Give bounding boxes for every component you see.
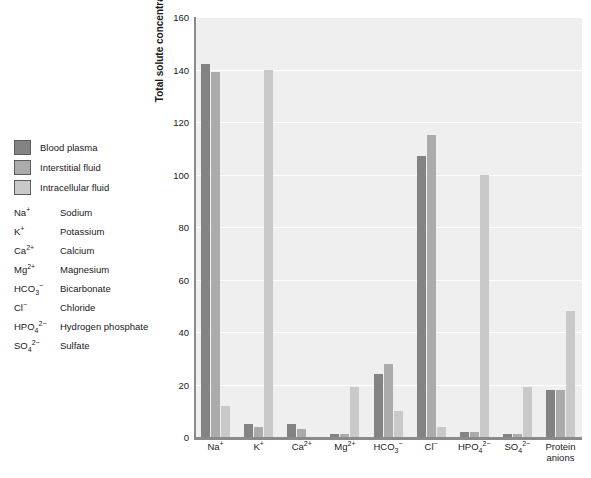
ion-key-symbol: Na+ (14, 207, 60, 218)
bar (287, 424, 296, 437)
y-axis-tick-label: 0 (184, 432, 189, 443)
chart-key-panel: Blood plasma Interstitial fluid Intracel… (14, 138, 164, 359)
ion-key-name: Sulfate (60, 340, 90, 351)
legend-item-interstitial-fluid: Interstitial fluid (14, 158, 164, 177)
x-axis-tick-label: K+ (253, 441, 263, 452)
x-axis-tick-label: SO42− (505, 441, 531, 452)
bar-group (460, 17, 489, 437)
bar (201, 64, 210, 437)
ion-key-name: Bicarbonate (60, 283, 111, 294)
ion-key-row: SO42−Sulfate (14, 340, 164, 351)
ion-key-symbol: HPO42− (14, 321, 60, 332)
bar-group (287, 17, 316, 437)
y-axis-tick-label: 60 (178, 274, 189, 285)
bar (264, 70, 273, 438)
ion-key-name: Sodium (60, 207, 92, 218)
y-axis-tick-label: 20 (178, 379, 189, 390)
ion-key-name: Calcium (60, 245, 94, 256)
plot-area: 020406080100120140160 Na+K+Ca2+Mg2+HCO3−… (194, 17, 582, 437)
legend-swatch-blood-plasma (14, 140, 31, 155)
x-axis-tick-label: Na+ (207, 441, 223, 452)
ion-key-row: K+Potassium (14, 226, 164, 237)
bar (546, 390, 555, 437)
bar (427, 135, 436, 437)
x-axis-tick-label: HCO3− (373, 441, 402, 452)
bar (437, 427, 446, 438)
bar (417, 156, 426, 437)
bar (523, 387, 532, 437)
x-axis-tick-label: Ca2+ (292, 441, 312, 452)
bars-layer (194, 17, 582, 437)
ion-key-symbol: K+ (14, 226, 60, 237)
y-axis-tick-label: 80 (178, 222, 189, 233)
legend-label-interstitial-fluid: Interstitial fluid (40, 162, 101, 173)
ion-key-row: Ca2+Calcium (14, 245, 164, 256)
bar-group (503, 17, 532, 437)
ion-key-name: Chloride (60, 302, 95, 313)
y-axis-tick-label: 100 (173, 169, 189, 180)
legend-item-blood-plasma: Blood plasma (14, 138, 164, 157)
ion-key-symbol: Ca2+ (14, 245, 60, 256)
bar (374, 374, 383, 437)
legend-label-blood-plasma: Blood plasma (40, 142, 98, 153)
y-axis-title: Total solute concentration (mEq/L) (154, 0, 165, 130)
y-axis-tick-label: 160 (173, 12, 189, 23)
bar (556, 390, 565, 437)
bar (480, 175, 489, 438)
ion-key-symbol: HCO3− (14, 283, 60, 294)
ion-key-name: Hydrogen phosphate (60, 321, 148, 332)
bar (297, 429, 306, 437)
bar-group (330, 17, 359, 437)
bar (384, 364, 393, 438)
bar-group (417, 17, 446, 437)
y-axis-tick-label: 140 (173, 64, 189, 75)
bar-group (244, 17, 273, 437)
ion-key-row: HPO42−Hydrogen phosphate (14, 321, 164, 332)
legend-swatch-intracellular-fluid (14, 180, 31, 195)
ion-key-row: HCO3−Bicarbonate (14, 283, 164, 294)
bar-group (374, 17, 403, 437)
ion-key-row: Mg2+Magnesium (14, 264, 164, 275)
y-axis-tick-label: 40 (178, 327, 189, 338)
bar-group (546, 17, 575, 437)
bar-group (201, 17, 230, 437)
bar-chart: Total solute concentration (mEq/L) 02040… (158, 10, 583, 475)
legend-item-intracellular-fluid: Intracellular fluid (14, 178, 164, 197)
bar (254, 427, 263, 438)
chart-legend: Blood plasma Interstitial fluid Intracel… (14, 138, 164, 197)
x-axis-tick-label: Protein anions (537, 441, 583, 463)
bar (350, 387, 359, 437)
bar (244, 424, 253, 437)
bar (566, 311, 575, 437)
ion-key-name: Magnesium (60, 264, 109, 275)
bar (211, 72, 220, 437)
bar (221, 406, 230, 438)
ion-key-name: Potassium (60, 226, 104, 237)
ion-key-symbol: Cl− (14, 302, 60, 313)
ion-key-row: Cl−Chloride (14, 302, 164, 313)
x-axis-tick-label: HPO42− (458, 441, 490, 452)
legend-swatch-interstitial-fluid (14, 160, 31, 175)
y-axis-tick-label: 120 (173, 117, 189, 128)
x-axis-tick-label: Mg2+ (334, 441, 355, 452)
ion-key-symbol: SO42− (14, 340, 60, 351)
bar (394, 411, 403, 437)
ion-key-row: Na+Sodium (14, 207, 164, 218)
ion-key-symbol: Mg2+ (14, 264, 60, 275)
x-axis-tick-label: Cl− (425, 441, 438, 452)
ion-abbreviation-key: Na+SodiumK+PotassiumCa2+CalciumMg2+Magne… (14, 207, 164, 351)
legend-label-intracellular-fluid: Intracellular fluid (40, 182, 109, 193)
